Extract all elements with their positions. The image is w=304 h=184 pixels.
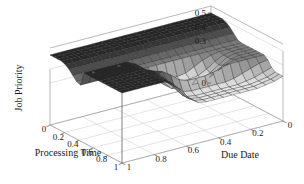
y-tick-label: 0.6 xyxy=(188,145,200,155)
z-tick-label: 0 xyxy=(202,78,207,88)
y-axis-title: Due Date xyxy=(221,149,260,160)
z-tick-label: 0.5 xyxy=(195,8,207,18)
y-tick-label: 0.2 xyxy=(252,128,263,138)
surface-mesh xyxy=(50,13,283,103)
z-axis-title: Job Priority xyxy=(13,65,24,112)
x-tick-label: 0.2 xyxy=(53,132,64,142)
surface-plot-figure: 0.50.40.3000.20.40.60.8110.80.60.40.20Jo… xyxy=(0,0,304,184)
y-tick-label: 0.4 xyxy=(220,137,232,147)
x-tick-label: 1 xyxy=(114,162,119,172)
y-tick-label: 0.8 xyxy=(156,154,168,164)
z-tick-label: 0.3 xyxy=(195,36,207,46)
x-tick-label: 0 xyxy=(42,124,47,134)
y-tick-label: 1 xyxy=(127,162,132,172)
x-axis-title: Processing Time xyxy=(35,147,102,158)
plot-canvas: 0.50.40.3000.20.40.60.8110.80.60.40.20Jo… xyxy=(0,0,304,184)
z-tick-label: 0.4 xyxy=(195,22,207,32)
y-tick-label: 0 xyxy=(288,120,293,130)
